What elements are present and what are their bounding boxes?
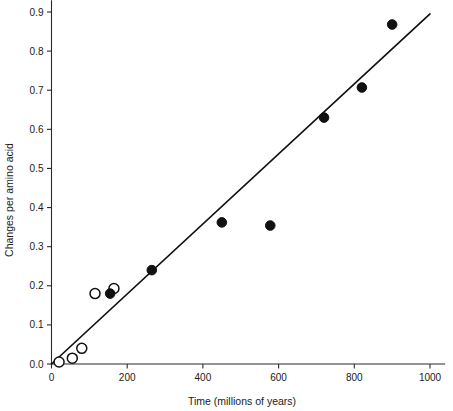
data-point-filled bbox=[265, 221, 275, 231]
data-point-open bbox=[54, 357, 64, 367]
regression-line bbox=[52, 14, 431, 364]
y-tick-label: 0.0 bbox=[30, 359, 44, 370]
data-point-filled bbox=[319, 113, 329, 123]
data-point-open bbox=[90, 289, 100, 299]
x-tick-label: 600 bbox=[270, 372, 287, 383]
y-tick-label: 0.1 bbox=[30, 319, 44, 330]
data-point-filled bbox=[357, 83, 367, 93]
data-point-filled bbox=[105, 289, 115, 299]
data-point-open bbox=[67, 353, 77, 363]
x-tick-label: 400 bbox=[195, 372, 212, 383]
data-point-filled bbox=[217, 218, 227, 228]
y-tick-label: 0.4 bbox=[30, 202, 44, 213]
scatter-plot-figure: 0.00.10.20.30.40.50.60.70.80.9 020040060… bbox=[0, 0, 453, 411]
y-tick-label: 0.8 bbox=[30, 46, 44, 57]
x-axis: 02004006008001000 bbox=[49, 364, 445, 383]
data-point-open bbox=[77, 343, 87, 353]
regression-line-segment bbox=[52, 14, 431, 364]
data-point-filled bbox=[387, 20, 397, 30]
x-tick-label: 800 bbox=[346, 372, 363, 383]
y-tick-label: 0.5 bbox=[30, 163, 44, 174]
y-tick-label: 0.9 bbox=[30, 7, 44, 18]
y-tick-label: 0.2 bbox=[30, 280, 44, 291]
y-axis: 0.00.10.20.30.40.50.60.70.80.9 bbox=[30, 0, 52, 369]
y-tick-label: 0.3 bbox=[30, 241, 44, 252]
chart-canvas: 0.00.10.20.30.40.50.60.70.80.9 020040060… bbox=[0, 0, 453, 411]
data-point-filled bbox=[147, 265, 157, 275]
y-axis-title: Changes per amino acid bbox=[3, 143, 15, 257]
y-tick-label: 0.6 bbox=[30, 124, 44, 135]
y-tick-label: 0.7 bbox=[30, 85, 44, 96]
x-tick-label: 200 bbox=[119, 372, 136, 383]
x-tick-label: 0 bbox=[49, 372, 55, 383]
x-tick-label: 1000 bbox=[419, 372, 442, 383]
x-axis-title: Time (millions of years) bbox=[188, 395, 296, 407]
